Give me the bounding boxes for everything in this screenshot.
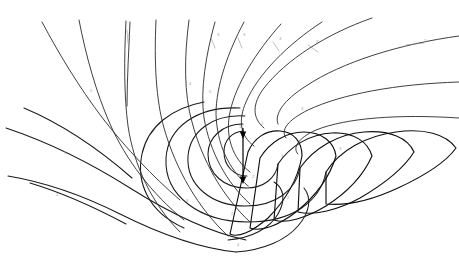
figure-root: 5333224553215312122324 [0, 0, 459, 267]
spiral-vortex-diagram: 5333224553215312122324 [0, 0, 459, 267]
